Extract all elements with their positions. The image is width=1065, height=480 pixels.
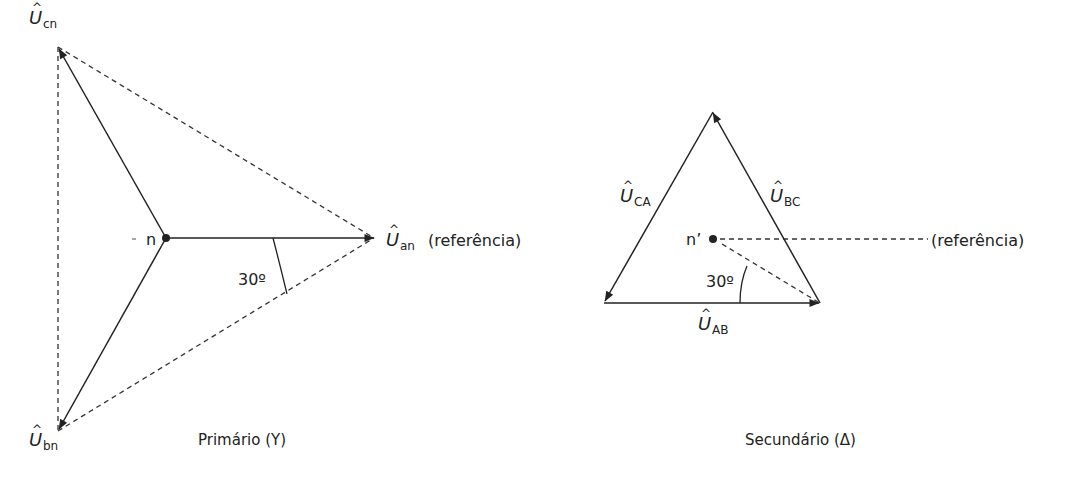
label-ubn: U ^ bn [29, 423, 58, 453]
dashed-line-bn-an [58, 238, 374, 431]
primary-wye-diagram: n 30º U ^ cn U ^ bn U ^ an (referência) … [29, 1, 521, 453]
svg-text:^: ^ [32, 1, 42, 15]
phasor-cn-arrow [59, 49, 166, 238]
svg-text:^: ^ [701, 307, 711, 321]
label-uan: U ^ an [386, 223, 415, 253]
svg-text:bn: bn [43, 439, 58, 453]
angle-label: 30º [238, 270, 266, 289]
primary-caption: Primário (Y) [198, 431, 286, 449]
angle-label: 30º [706, 272, 734, 291]
phasor-ca-arrow [605, 112, 713, 301]
secondary-caption: Secundário (Δ) [745, 431, 856, 449]
svg-text:cn: cn [43, 17, 57, 31]
svg-text:CA: CA [634, 195, 651, 209]
neutral-label: n’ [686, 230, 701, 249]
label-ucn: U ^ cn [29, 1, 57, 31]
svg-text:^: ^ [773, 179, 783, 193]
neutral-label: n [146, 230, 156, 249]
svg-text:an: an [400, 239, 415, 253]
secondary-delta-diagram: n’ 30º U ^ CA U ^ BC U ^ AB (referência)… [604, 112, 1024, 449]
phasor-diagram: n 30º U ^ cn U ^ bn U ^ an (referência) … [0, 0, 1065, 480]
svg-text:^: ^ [389, 223, 399, 237]
svg-text:^: ^ [623, 179, 633, 193]
svg-text:BC: BC [784, 195, 800, 209]
svg-text:^: ^ [32, 423, 42, 437]
phasor-bn-arrow [59, 238, 166, 429]
dashed-line-cn-an [58, 47, 374, 238]
label-uab: U ^ AB [698, 307, 728, 337]
svg-text:AB: AB [712, 323, 728, 337]
label-ubc: U ^ BC [770, 179, 800, 209]
reference-label: (referência) [931, 231, 1024, 250]
neutral-point-dot [709, 235, 717, 243]
angle-arc [273, 238, 287, 294]
label-uca: U ^ CA [620, 179, 651, 209]
angle-arc [740, 266, 747, 303]
neutral-point-dot [162, 234, 170, 242]
reference-label: (referência) [428, 231, 521, 250]
